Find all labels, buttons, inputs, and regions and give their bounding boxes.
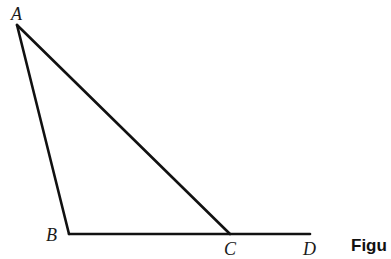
label-a: A xyxy=(10,4,23,24)
triangle-diagram: A B C D Figu xyxy=(0,0,391,259)
label-b: B xyxy=(46,225,57,245)
label-c: C xyxy=(224,239,237,259)
segment-ab xyxy=(17,25,69,234)
figure-caption: Figu xyxy=(351,236,387,255)
segment-ac xyxy=(17,25,230,234)
label-d: D xyxy=(302,239,316,259)
